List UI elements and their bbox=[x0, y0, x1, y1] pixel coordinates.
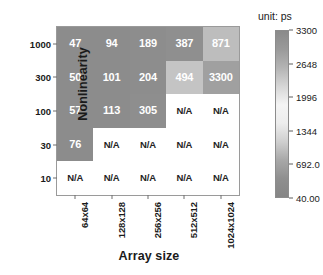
colorbar-tick-label: 1996 bbox=[296, 92, 317, 103]
heatmap-cell-na: N/A bbox=[93, 161, 129, 195]
heatmap-cell: 113 bbox=[93, 94, 129, 128]
colorbar-tick-label: 3300 bbox=[296, 25, 317, 36]
colorbar-tick-mark bbox=[289, 164, 293, 165]
heatmap-plot-area: 479418938787150101204494330057113305N/AN… bbox=[56, 26, 240, 196]
colorbar-unit-label: unit: ps bbox=[258, 10, 292, 22]
x-tick-mark bbox=[220, 195, 221, 199]
colorbar-tick-mark bbox=[289, 198, 293, 199]
heatmap-cell-na: N/A bbox=[203, 161, 239, 195]
x-tick-mark bbox=[111, 195, 112, 199]
heatmap-cell: 871 bbox=[203, 27, 239, 61]
colorbar-tick-mark bbox=[289, 30, 293, 31]
y-tick-label: 300 bbox=[35, 72, 51, 83]
y-tick-mark bbox=[53, 77, 57, 78]
heatmap-cell-na: N/A bbox=[166, 94, 202, 128]
heatmap-cell-na: N/A bbox=[166, 161, 202, 195]
heatmap-cell-na: N/A bbox=[93, 128, 129, 162]
heatmap-cell-na: N/A bbox=[166, 128, 202, 162]
heatmap-cell: 204 bbox=[130, 61, 166, 95]
heatmap-cell: 3300 bbox=[203, 61, 239, 95]
y-tick-mark bbox=[53, 43, 57, 44]
y-axis-title: Nonlinearity bbox=[76, 14, 90, 154]
x-tick-mark bbox=[75, 195, 76, 199]
colorbar-tick-mark bbox=[289, 97, 293, 98]
x-tick-label: 1024x1024 bbox=[225, 202, 236, 249]
x-tick-label: 64x64 bbox=[79, 202, 90, 228]
colorbar-tick-label: 2648 bbox=[296, 58, 317, 69]
heatmap-cell-na: N/A bbox=[130, 128, 166, 162]
heatmap-cell: 94 bbox=[93, 27, 129, 61]
y-tick-mark bbox=[53, 178, 57, 179]
colorbar: 3300264819961344692.040.00 bbox=[275, 30, 289, 198]
heatmap-cell-na: N/A bbox=[130, 161, 166, 195]
y-tick-mark bbox=[53, 111, 57, 112]
colorbar-tick-mark bbox=[289, 63, 293, 64]
colorbar-tick-label: 40.00 bbox=[296, 193, 320, 204]
colorbar-tick-label: 692.0 bbox=[296, 159, 320, 170]
x-tick-label: 128x128 bbox=[116, 202, 127, 238]
y-tick-label: 100 bbox=[35, 106, 51, 117]
y-tick-label: 1000 bbox=[30, 38, 51, 49]
heatmap-cell-na: N/A bbox=[203, 128, 239, 162]
heatmap-cell-na: N/A bbox=[203, 94, 239, 128]
x-tick-label: 256x256 bbox=[152, 202, 163, 238]
heatmap-cell: 101 bbox=[93, 61, 129, 95]
y-tick-mark bbox=[53, 144, 57, 145]
heatmap-cell: 305 bbox=[130, 94, 166, 128]
x-tick-mark bbox=[184, 195, 185, 199]
heatmap-cell-na: N/A bbox=[57, 161, 93, 195]
y-tick-label: 10 bbox=[40, 173, 51, 184]
y-tick-label: 30 bbox=[40, 139, 51, 150]
colorbar-gradient bbox=[275, 30, 289, 198]
heatmap-cell: 494 bbox=[166, 61, 202, 95]
colorbar-tick-label: 1344 bbox=[296, 125, 317, 136]
heatmap-cell: 189 bbox=[130, 27, 166, 61]
heatmap-cell: 387 bbox=[166, 27, 202, 61]
colorbar-tick-mark bbox=[289, 130, 293, 131]
x-tick-label: 512x512 bbox=[188, 202, 199, 238]
x-axis-title: Array size bbox=[57, 249, 241, 263]
x-tick-mark bbox=[148, 195, 149, 199]
